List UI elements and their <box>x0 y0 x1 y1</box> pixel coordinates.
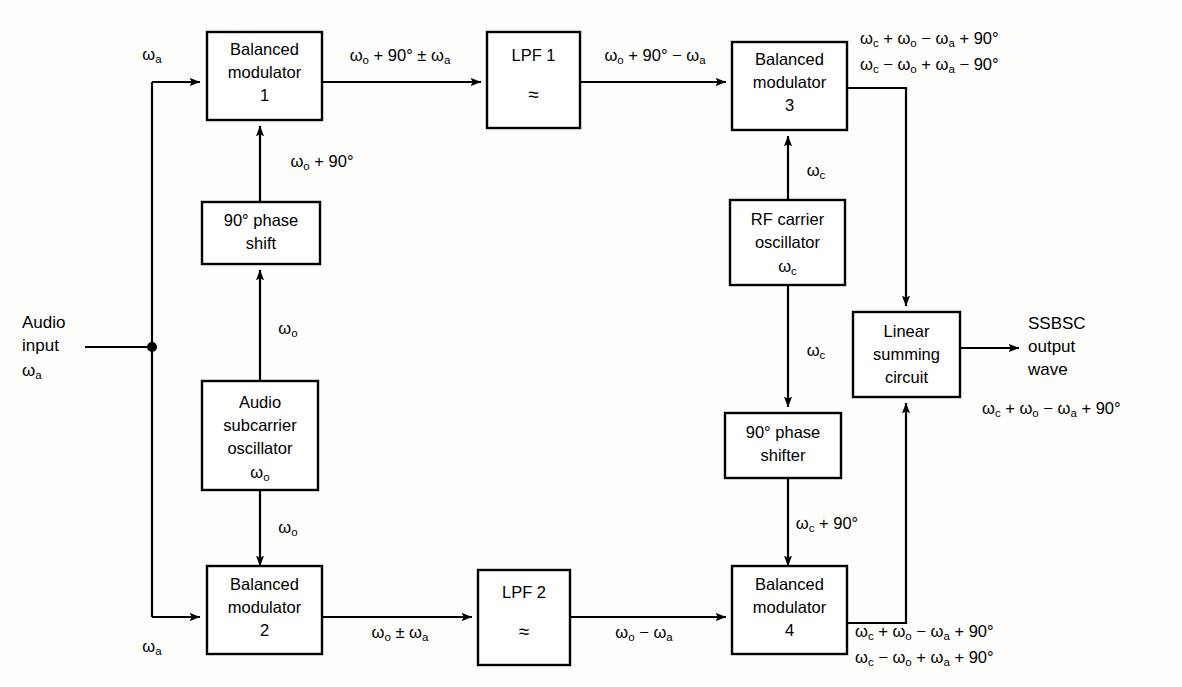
block-rf-shifter-line1: 90° phase <box>746 423 821 441</box>
label-audio-to-bm2: ωa <box>142 637 162 657</box>
audio-input-line1: Audio <box>22 313 65 332</box>
block-sum-line1: Linear <box>884 322 930 340</box>
label-bm3-out-line1: ωc + ωo − ωa + 90° <box>860 29 999 49</box>
block-sum-line3: circuit <box>885 368 929 386</box>
block-linear-summing-circuit[interactable]: Linear summing circuit <box>853 312 960 397</box>
diagram-svg: Balanced modulator 1 LPF 1 ≈ Balanced mo… <box>0 0 1182 687</box>
block-rf-carrier-oscillator[interactable]: RF carrier oscillator ωc <box>730 200 845 285</box>
block-bm3-line2: modulator <box>753 73 827 91</box>
wire-bm3-to-summing <box>847 88 906 306</box>
block-balanced-modulator-3[interactable]: Balanced modulator 3 <box>732 42 847 130</box>
block-phase-shifter-90-rf[interactable]: 90° phase shifter <box>725 413 841 478</box>
label-lpf2-out: ωo − ωa <box>615 623 673 643</box>
output-line2: output <box>1028 337 1076 356</box>
label-bm4-out-line2: ωc − ωo + ωa + 90° <box>855 648 994 668</box>
block-rfosc-line2: oscillator <box>755 233 821 251</box>
block-bm4-line1: Balanced <box>755 575 824 593</box>
block-bm2-line1: Balanced <box>230 575 299 593</box>
label-rfosc-to-bm3: ωc <box>807 161 826 181</box>
block-bm2-line3: 2 <box>260 621 269 639</box>
label-rfosc-to-shifter: ωc <box>807 341 826 361</box>
block-balanced-modulator-2[interactable]: Balanced modulator 2 <box>207 566 322 654</box>
block-aso-line2: subcarrier <box>223 416 297 434</box>
block-lpf2-label: LPF 2 <box>502 583 546 601</box>
label-bm1-out: ωo + 90° ± ωa <box>350 46 451 66</box>
block-bm4-line3: 4 <box>785 621 794 639</box>
block-bm1-line2: modulator <box>228 63 302 81</box>
block-lpf-1[interactable]: LPF 1 ≈ <box>487 32 580 128</box>
block-bm3-line3: 3 <box>785 96 794 114</box>
block-audio-subcarrier-oscillator[interactable]: Audio subcarrier oscillator ωo <box>202 381 318 490</box>
junction-dot-audio <box>147 342 157 352</box>
block-aso-line3: oscillator <box>227 439 293 457</box>
label-audio-to-bm1: ωa <box>142 45 162 65</box>
block-balanced-modulator-4[interactable]: Balanced modulator 4 <box>732 566 847 654</box>
block-bm1-line3: 1 <box>260 86 269 104</box>
block-bm2-line2: modulator <box>228 598 302 616</box>
block-lpf2-approx-icon: ≈ <box>519 621 529 642</box>
output-line3: wave <box>1027 360 1068 379</box>
block-phase-shift-90-audio[interactable]: 90° phase shift <box>202 202 320 264</box>
label-phase-shift-out: ωo + 90° <box>290 152 353 172</box>
label-osc-to-phase-shift: ωo <box>278 319 297 339</box>
block-bm3-line1: Balanced <box>755 50 824 68</box>
block-sum-line2: summing <box>873 345 940 363</box>
label-bm4-out-line1: ωc + ωo − ωa + 90° <box>855 622 994 642</box>
audio-input-line3: ωa <box>22 361 42 381</box>
audio-input-label: Audio input ωa <box>22 313 65 381</box>
block-balanced-modulator-1[interactable]: Balanced modulator 1 <box>207 32 322 120</box>
block-rfosc-line1: RF carrier <box>751 210 825 228</box>
block-phase-shift-line2: shift <box>246 234 277 252</box>
block-bm4-line2: modulator <box>753 598 827 616</box>
block-rf-shifter-line2: shifter <box>761 446 806 464</box>
ssbsc-output-label: SSBSC output wave ωc + ωo − ωa + 90° <box>982 314 1121 419</box>
label-shifter-to-bm4: ωc + 90° <box>796 514 858 534</box>
block-diagram-canvas: Balanced modulator 1 LPF 1 ≈ Balanced mo… <box>0 0 1182 687</box>
wire-bm4-to-summing <box>847 403 906 623</box>
block-lpf-2[interactable]: LPF 2 ≈ <box>478 570 570 665</box>
label-lpf1-out: ωo + 90° − ωa <box>604 46 706 66</box>
output-line1: SSBSC <box>1028 314 1086 333</box>
label-bm2-out: ωo ± ωa <box>372 623 429 643</box>
audio-input-line2: input <box>22 336 59 355</box>
label-osc-to-bm2: ωo <box>278 518 297 538</box>
block-aso-line1: Audio <box>239 393 281 411</box>
label-bm3-out-line2: ωc − ωo + ωa − 90° <box>860 55 999 75</box>
block-lpf1-label: LPF 1 <box>511 46 555 64</box>
block-bm1-line1: Balanced <box>230 40 299 58</box>
output-expression: ωc + ωo − ωa + 90° <box>982 399 1121 419</box>
block-lpf1-approx-icon: ≈ <box>528 84 538 105</box>
block-phase-shift-line1: 90° phase <box>224 211 299 229</box>
